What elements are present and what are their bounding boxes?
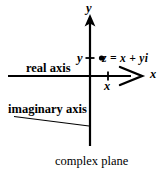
figure-caption: complex plane [55,155,128,168]
complex-plane-figure: y x y x z = x + yi real axis imaginary a… [0,0,168,173]
y-tick-label: y [77,52,83,65]
y-axis-label: y [86,2,92,15]
x-axis-label: x [150,68,156,81]
x-tick-label: x [104,80,110,93]
imaginary-axis-leader-line [14,117,89,127]
axes-drawing [0,0,168,173]
real-axis-name-label: real axis [26,62,71,75]
imaginary-axis-name-label: imaginary axis [8,103,87,116]
point-z-equation-label: z = x + yi [102,53,148,65]
